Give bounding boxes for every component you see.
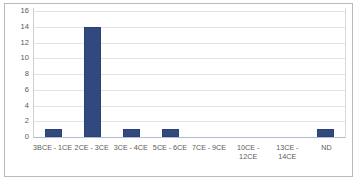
x-tick-label: 2CE - 3CE (72, 139, 111, 169)
bar-slot (112, 8, 151, 137)
bar-slot (228, 8, 267, 137)
x-tick-label: 7CE - 9CE (190, 139, 229, 169)
x-axis: 3BCE - 1CE 2CE - 3CE 3CE - 4CE 5CE - 6CE… (33, 139, 346, 169)
plot-area (33, 8, 346, 138)
x-tick-label: 3CE - 4CE (111, 139, 150, 169)
bar[interactable] (45, 129, 62, 137)
bar[interactable] (162, 129, 179, 137)
chart-outer-frame: 16 14 12 10 8 6 4 2 0 (4, 3, 353, 177)
y-tick-label: 12 (20, 39, 29, 47)
y-tick-label: 14 (20, 23, 29, 31)
y-tick-label: 0 (25, 133, 29, 141)
chart-card: 16 14 12 10 8 6 4 2 0 (9, 8, 348, 172)
chart-screenshot: 16 14 12 10 8 6 4 2 0 (0, 0, 357, 181)
bar-slot (190, 8, 229, 137)
y-tick-label: 8 (25, 70, 29, 78)
bar-slot (306, 8, 345, 137)
y-tick-label: 4 (25, 102, 29, 110)
y-tick-label: 6 (25, 86, 29, 94)
bar[interactable] (123, 129, 140, 137)
bar-slot (73, 8, 112, 137)
x-tick-label: 3BCE - 1CE (33, 139, 72, 169)
y-tick-label: 10 (20, 55, 29, 63)
bar[interactable] (84, 27, 101, 137)
y-tick-label: 16 (20, 7, 29, 15)
bar-slot (267, 8, 306, 137)
x-tick-label: ND (307, 139, 346, 169)
bar-slot (34, 8, 73, 137)
y-tick-label: 2 (25, 118, 29, 126)
bar-slot (151, 8, 190, 137)
x-tick-label: 13CE - 14CE (268, 139, 307, 169)
x-tick-label: 5CE - 6CE (150, 139, 189, 169)
plot-row: 16 14 12 10 8 6 4 2 0 (9, 8, 348, 138)
bar[interactable] (317, 129, 334, 137)
y-axis: 16 14 12 10 8 6 4 2 0 (9, 8, 33, 138)
bar-series (34, 8, 345, 137)
x-tick-label: 10CE - 12CE (229, 139, 268, 169)
